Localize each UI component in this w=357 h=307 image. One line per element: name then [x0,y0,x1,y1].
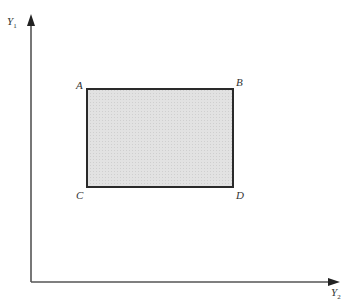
y1-arrow-icon [27,14,35,26]
diagram-canvas [0,0,357,307]
y1-label-subscript: 1 [13,22,17,30]
corner-label-b: B [236,77,243,88]
y1-axis-label: Y1 [7,16,17,30]
corner-label-c: C [76,190,83,201]
y2-label-subscript: 2 [337,293,341,301]
y2-arrow-icon [328,278,340,286]
y2-axis-label: Y2 [331,287,341,301]
region-rectangle [87,89,233,187]
corner-label-d: D [236,190,244,201]
corner-label-a: A [76,80,83,91]
